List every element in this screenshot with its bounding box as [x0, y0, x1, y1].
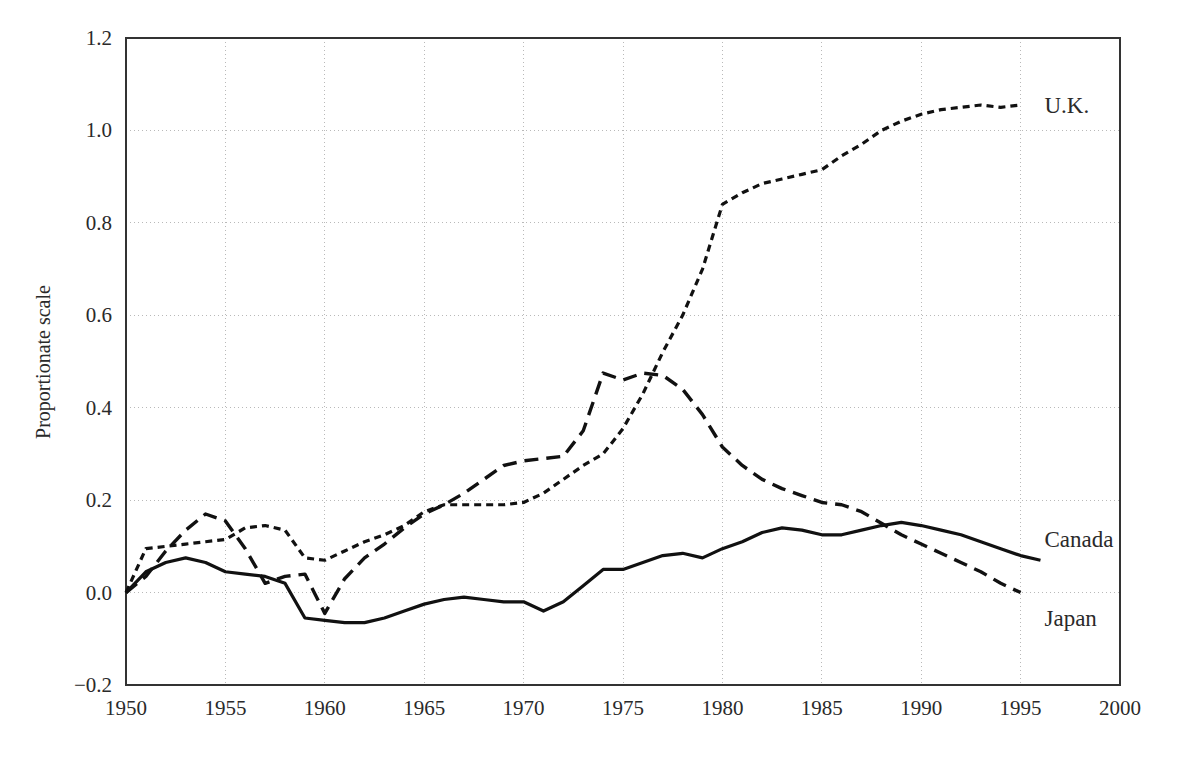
- x-tick-label: 1995: [1000, 696, 1042, 720]
- axis-frame: [126, 38, 1120, 685]
- y-axis-title: Proportionate scale: [32, 285, 55, 439]
- x-tick-label: 1955: [204, 696, 246, 720]
- x-tick-label: 1985: [801, 696, 843, 720]
- series-line-uk: [126, 105, 1021, 593]
- chart-container: 1950195519601965197019751980198519901995…: [0, 0, 1188, 758]
- y-tick-label: 0.6: [86, 303, 112, 327]
- y-tick-label: −0.2: [74, 673, 112, 697]
- y-axis-tick-labels: −0.20.00.20.40.60.81.01.2: [74, 26, 113, 697]
- y-tick-label: 0.8: [86, 211, 112, 235]
- x-tick-label: 1965: [403, 696, 445, 720]
- series-lines: [126, 105, 1040, 623]
- x-tick-label: 1975: [602, 696, 644, 720]
- series-inline-labels: U.K.JapanCanada: [1045, 93, 1114, 631]
- series-label-japan: Japan: [1045, 606, 1098, 631]
- gridlines: [126, 38, 1120, 685]
- y-tick-label: 0.4: [86, 396, 113, 420]
- x-tick-label: 2000: [1099, 696, 1141, 720]
- series-label-canada: Canada: [1045, 527, 1114, 552]
- y-tick-label: 1.0: [86, 118, 112, 142]
- x-axis-tick-labels: 1950195519601965197019751980198519901995…: [105, 696, 1141, 720]
- plot-border: [126, 38, 1120, 685]
- y-tick-label: 1.2: [86, 26, 112, 50]
- x-tick-label: 1990: [900, 696, 942, 720]
- line-chart: 1950195519601965197019751980198519901995…: [0, 0, 1188, 758]
- y-tick-label: 0.0: [86, 581, 112, 605]
- y-tick-label: 0.2: [86, 488, 112, 512]
- x-tick-label: 1980: [701, 696, 743, 720]
- series-label-uk: U.K.: [1045, 93, 1090, 118]
- x-tick-label: 1970: [503, 696, 545, 720]
- x-tick-label: 1960: [304, 696, 346, 720]
- x-tick-label: 1950: [105, 696, 147, 720]
